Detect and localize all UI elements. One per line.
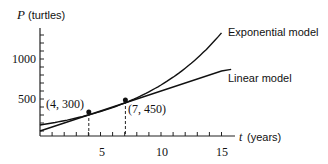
x-axis-unit: (years) — [247, 131, 281, 143]
label-point-4-300: (4, 300) — [46, 97, 84, 111]
exponential-model-label: Exponential model — [228, 26, 319, 38]
y-tick-1000: 1000 — [12, 52, 36, 66]
y-axis-unit: (turtles) — [28, 9, 65, 21]
chart: P (turtles) 1000 500 5 10 15 t (years) (… — [0, 0, 328, 164]
x-tick-5: 5 — [99, 145, 105, 159]
y-axis-var: P — [16, 7, 25, 22]
label-point-7-450: (7, 450) — [128, 102, 166, 116]
point-4-300 — [86, 110, 91, 115]
y-tick-500: 500 — [18, 92, 36, 106]
x-axis-var: t — [239, 130, 243, 144]
x-tick-10: 10 — [156, 145, 168, 159]
linear-model-label: Linear model — [228, 72, 292, 84]
x-tick-15: 15 — [216, 145, 228, 159]
